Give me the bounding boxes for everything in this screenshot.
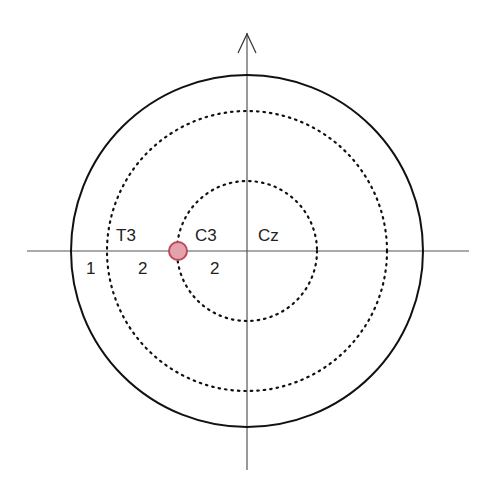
label-dist-outer: 1 [86, 259, 95, 278]
label-dist-inner: 2 [210, 259, 219, 278]
label-dist-mid: 2 [138, 259, 147, 278]
c3-marker [169, 242, 187, 260]
label-t3: T3 [116, 226, 136, 245]
label-c3: C3 [195, 226, 217, 245]
label-cz: Cz [258, 226, 279, 245]
electrode-diagram: T3 C3 Cz 1 2 2 [0, 0, 493, 486]
